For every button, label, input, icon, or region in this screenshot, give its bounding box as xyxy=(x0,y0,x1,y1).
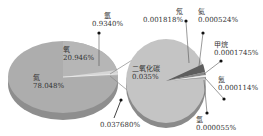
label-kr: 氪 0.000114% xyxy=(218,76,258,92)
h2-leader-dot xyxy=(205,111,208,114)
ar-leader-dot xyxy=(97,31,100,34)
label-co2: 二氧化碳 0.035% xyxy=(132,65,160,81)
label-o2: 氧 20.946% xyxy=(63,46,94,62)
kr-leader-dot xyxy=(222,97,225,100)
label-ar: 氩 0.9340% xyxy=(92,12,123,28)
label-he: 氦 0.000524% xyxy=(198,8,238,24)
label-n2: 氮 78.048% xyxy=(33,74,64,90)
ne-leader-dot xyxy=(184,19,187,22)
label-h2: 氢 0.000055% xyxy=(196,116,236,132)
he-leader-dot xyxy=(201,31,204,34)
label-ch4: 甲烷 0.0001745% xyxy=(214,41,259,57)
ch4-leader-dot xyxy=(219,59,222,62)
other-leader-dot xyxy=(119,98,122,101)
label-other: 0.037680% xyxy=(100,121,140,129)
label-ne: 氖 0.001818% xyxy=(143,8,183,24)
